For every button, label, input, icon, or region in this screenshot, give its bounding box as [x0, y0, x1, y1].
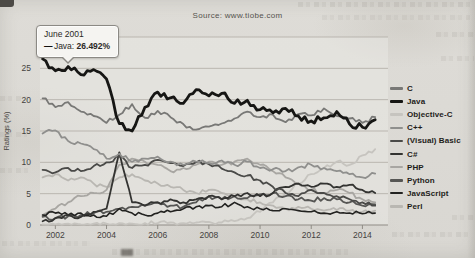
legend-swatch-icon: [390, 166, 403, 169]
legend-label: C#: [407, 150, 417, 159]
legend-label: Objective-C: [407, 110, 453, 119]
legend-swatch-icon: [390, 127, 403, 130]
tooltip-date: June 2001: [44, 29, 110, 41]
legend-item: Perl: [390, 200, 461, 213]
y-tick-label: 0: [26, 220, 31, 230]
legend-label: PHP: [407, 163, 424, 172]
legend-item: C: [390, 82, 461, 95]
legend-label: C++: [407, 123, 422, 132]
chart-legend: CJavaObjective-CC++(Visual) BasicC#PHPPy…: [390, 82, 461, 213]
x-tick-label: 2012: [302, 230, 321, 240]
legend-item: C#: [390, 147, 461, 160]
legend-swatch-icon: [390, 192, 403, 194]
legend-label: C: [407, 84, 413, 93]
x-tick-label: 2004: [97, 230, 116, 240]
legend-swatch-icon: [390, 113, 403, 116]
legend-label: Python: [407, 176, 435, 185]
y-tick-label: 10: [22, 157, 32, 167]
y-tick-label: 20: [22, 95, 32, 105]
legend-swatch-icon: [390, 140, 403, 143]
legend-label: Perl: [407, 202, 423, 211]
legend-item: Objective-C: [390, 108, 461, 121]
legend-item: C++: [390, 121, 461, 134]
y-tick-label: 15: [22, 126, 32, 136]
legend-item: PHP: [390, 161, 461, 174]
legend-swatch-icon: [390, 179, 403, 182]
x-tick-label: 2014: [353, 230, 372, 240]
scanned-tiobe-chart-page: Source: www.tiobe.com 0510152025Ratings …: [0, 0, 475, 258]
tooltip-series-value: 26.492%: [77, 41, 111, 51]
legend-label: Java: [407, 97, 425, 106]
y-axis-title: Ratings (%): [2, 111, 11, 151]
legend-item: Python: [390, 174, 461, 187]
tooltip-series-label: Java:: [54, 41, 74, 51]
x-tick-label: 2010: [251, 230, 270, 240]
java-line-swatch-icon: —: [44, 41, 52, 51]
y-tick-label: 25: [22, 63, 32, 73]
x-tick-label: 2006: [148, 230, 167, 240]
legend-item: JavaScript: [390, 187, 461, 200]
tooltip-value-row: — Java: 26.492%: [44, 41, 110, 53]
y-tick-label: 5: [26, 189, 31, 199]
legend-label: (Visual) Basic: [407, 136, 461, 145]
chart-tooltip: June 2001 — Java: 26.492%: [36, 25, 119, 58]
legend-label: JavaScript: [407, 189, 448, 198]
x-tick-label: 2002: [46, 230, 65, 240]
legend-item: (Visual) Basic: [390, 134, 461, 147]
legend-swatch-icon: [390, 100, 403, 104]
legend-item: Java: [390, 95, 461, 108]
legend-swatch-icon: [390, 87, 403, 90]
x-tick-label: 2008: [199, 230, 218, 240]
legend-swatch-icon: [390, 205, 403, 208]
legend-swatch-icon: [390, 153, 403, 156]
